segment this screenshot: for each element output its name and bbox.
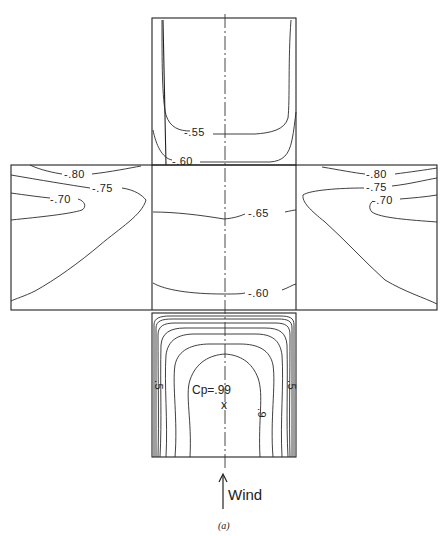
face-top-outline	[152, 18, 296, 165]
face-top: -.55 -.60	[152, 18, 296, 167]
label-windward-09: .9	[256, 408, 268, 418]
contour-left-075	[11, 175, 146, 301]
contour-top-055	[162, 20, 291, 134]
figure-caption: (a)	[218, 520, 230, 532]
contour-right-075	[303, 178, 437, 304]
contour-left-070	[11, 193, 85, 220]
wind-label: Wind	[228, 486, 262, 503]
wind-indicator: Wind	[219, 474, 262, 509]
label-left-075: -.75	[92, 182, 113, 194]
label-top-055: -.55	[184, 126, 205, 138]
label-right-070: -.70	[372, 194, 393, 206]
label-right-075: -.75	[366, 181, 387, 193]
windward-peak-marker: x	[221, 398, 227, 412]
label-windward-05-left: .5	[153, 380, 165, 390]
contour-left-080	[30, 165, 141, 174]
face-left: -.80 -.75 -.70	[11, 165, 146, 301]
label-left-080: -.80	[64, 168, 85, 180]
face-right: -.80 -.75 -.70	[303, 167, 437, 304]
contour-center-060	[153, 283, 296, 294]
face-roof-center: -.65 -.60	[153, 207, 296, 299]
contour-center-065	[153, 210, 296, 219]
pressure-coefficient-diagram: -.55 -.60 -.80 -.75 -.70 -.80 -.75 -.70 …	[0, 0, 448, 536]
label-center-060: -.60	[248, 287, 269, 299]
label-windward-cp: Cp=.99	[192, 383, 231, 397]
label-center-065: -.65	[248, 207, 269, 219]
label-windward-05-right: .5	[286, 380, 298, 390]
label-left-070: -.70	[50, 193, 71, 205]
label-right-080: -.80	[366, 168, 387, 180]
